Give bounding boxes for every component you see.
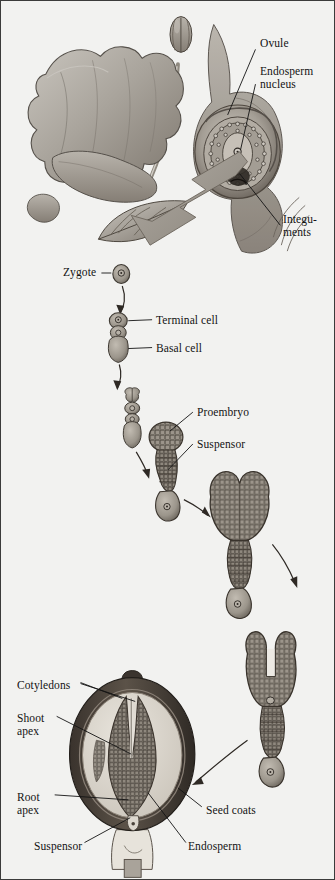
label-basal-cell: Basal cell bbox=[156, 342, 202, 355]
label-ovule: Ovule bbox=[260, 37, 289, 50]
label-suspensor-bottom: Suspensor bbox=[34, 840, 82, 853]
label-endosperm: Endosperm bbox=[188, 840, 241, 853]
label-seed-coats: Seed coats bbox=[206, 804, 256, 817]
label-cotyledons: Cotyledons bbox=[17, 679, 70, 692]
label-zygote: Zygote bbox=[63, 266, 96, 279]
label-integuments: Integu- ments bbox=[283, 213, 317, 238]
label-terminal-cell: Terminal cell bbox=[156, 314, 218, 327]
label-suspensor-top: Suspensor bbox=[197, 438, 245, 451]
label-proembryo: Proembryo bbox=[197, 406, 249, 419]
embryo-development-figure: Ovule Endosperm nucleus Integu- ments Zy… bbox=[0, 0, 335, 880]
label-endosperm-nucleus: Endosperm nucleus bbox=[260, 65, 313, 90]
embryo-development-illustration bbox=[1, 1, 334, 879]
label-shoot-apex: Shoot apex bbox=[17, 712, 44, 737]
anther bbox=[170, 17, 192, 53]
label-root-apex: Root apex bbox=[17, 791, 40, 816]
